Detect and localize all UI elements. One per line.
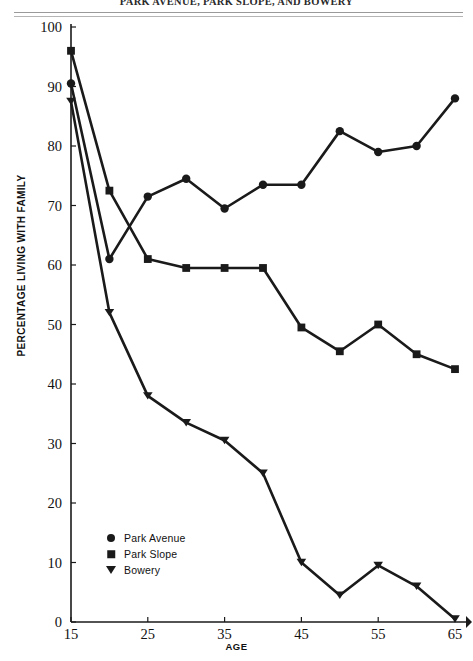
data-point-marker bbox=[336, 127, 344, 135]
square-marker bbox=[104, 546, 118, 562]
x-tick-label-65: 65 bbox=[439, 626, 471, 642]
data-point-marker bbox=[451, 94, 459, 102]
data-point-marker bbox=[298, 324, 306, 332]
y-tick-label-80: 80 bbox=[26, 138, 62, 154]
legend-marker-glyph bbox=[107, 534, 115, 542]
data-point-marker bbox=[67, 47, 75, 55]
series-park-slope bbox=[67, 47, 459, 373]
data-point-marker bbox=[144, 255, 152, 263]
legend-item-label: Park Avenue bbox=[124, 530, 186, 546]
y-tick-label-60: 60 bbox=[26, 257, 62, 273]
x-tick-label-35: 35 bbox=[209, 626, 241, 642]
data-point-marker bbox=[259, 180, 267, 188]
y-axis-title: PERCENTAGE LIVING WITH FAMILY bbox=[16, 166, 27, 366]
legend-marker-glyph bbox=[107, 550, 115, 558]
legend-item-bowery: Bowery bbox=[104, 562, 254, 578]
data-point-marker bbox=[220, 204, 228, 212]
triangle-down-marker bbox=[104, 562, 118, 578]
x-tick-label-55: 55 bbox=[362, 626, 394, 642]
data-point-marker bbox=[105, 309, 115, 316]
data-point-marker bbox=[258, 470, 268, 477]
data-point-marker bbox=[105, 255, 113, 263]
y-tick-label-20: 20 bbox=[26, 495, 62, 511]
y-tick-label-50: 50 bbox=[26, 317, 62, 333]
data-point-marker bbox=[259, 264, 267, 272]
legend-item-park-slope: Park Slope bbox=[104, 546, 254, 562]
y-tick-label-90: 90 bbox=[26, 79, 62, 95]
data-point-marker bbox=[374, 148, 382, 156]
legend-item-label: Bowery bbox=[124, 562, 160, 578]
y-tick-label-40: 40 bbox=[26, 376, 62, 392]
data-point-marker bbox=[144, 192, 152, 200]
data-point-marker bbox=[67, 79, 75, 87]
x-tick-label-25: 25 bbox=[132, 626, 164, 642]
circle-marker bbox=[104, 530, 118, 546]
legend-marker-glyph bbox=[106, 566, 116, 574]
data-point-marker bbox=[374, 321, 382, 329]
data-point-marker bbox=[412, 142, 420, 150]
chart-figure: PARK AVENUE, PARK SLOPE, AND BOWERY 0102… bbox=[0, 0, 473, 661]
y-tick-label-10: 10 bbox=[26, 555, 62, 571]
data-point-marker bbox=[221, 264, 229, 272]
x-axis-title: AGE bbox=[0, 641, 473, 652]
data-point-marker bbox=[182, 264, 190, 272]
y-tick-label-70: 70 bbox=[26, 198, 62, 214]
series-line bbox=[71, 84, 455, 260]
data-point-marker bbox=[413, 350, 421, 358]
data-point-marker bbox=[451, 365, 459, 373]
legend-item-park-avenue: Park Avenue bbox=[104, 530, 254, 546]
series-line bbox=[71, 51, 455, 369]
data-point-marker bbox=[106, 187, 114, 195]
chart-legend: Park AvenuePark SlopeBowery bbox=[104, 530, 254, 578]
data-point-marker bbox=[335, 592, 345, 599]
data-point-marker bbox=[297, 180, 305, 188]
series-park-avenue bbox=[67, 79, 459, 263]
data-point-marker bbox=[336, 347, 344, 355]
legend-item-label: Park Slope bbox=[124, 546, 177, 562]
data-point-marker bbox=[182, 175, 190, 183]
x-tick-label-15: 15 bbox=[55, 626, 87, 642]
y-tick-label-100: 100 bbox=[26, 19, 62, 35]
y-tick-label-30: 30 bbox=[26, 436, 62, 452]
x-tick-label-45: 45 bbox=[285, 626, 317, 642]
